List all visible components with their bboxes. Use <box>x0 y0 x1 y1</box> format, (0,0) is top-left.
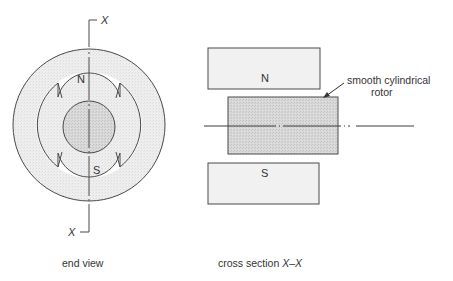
end-view-south-label: S <box>93 164 100 176</box>
diagram-canvas: X X N S end view N S smooth cylindrical … <box>0 0 453 281</box>
cross-section-caption-prefix: cross section <box>218 257 282 269</box>
cross-section-caption: cross section X–X <box>218 257 303 269</box>
section-marker-bottom-label: X <box>67 226 76 238</box>
cross-section-south-label: S <box>261 167 268 179</box>
rotor-annotation-line2: rotor <box>371 86 393 98</box>
cross-section-north-label: N <box>261 72 269 84</box>
rotor-annotation-line1: smooth cylindrical <box>347 74 430 86</box>
cross-section: N S smooth cylindrical rotor cross secti… <box>204 48 430 269</box>
end-view-caption: end view <box>62 257 104 269</box>
end-view-north-label: N <box>77 73 85 85</box>
section-marker-top-label: X <box>100 14 109 26</box>
cross-section-caption-section: X–X <box>281 257 303 269</box>
annotation-arrow-line <box>326 83 344 96</box>
end-view: X X N S end view <box>13 14 165 269</box>
